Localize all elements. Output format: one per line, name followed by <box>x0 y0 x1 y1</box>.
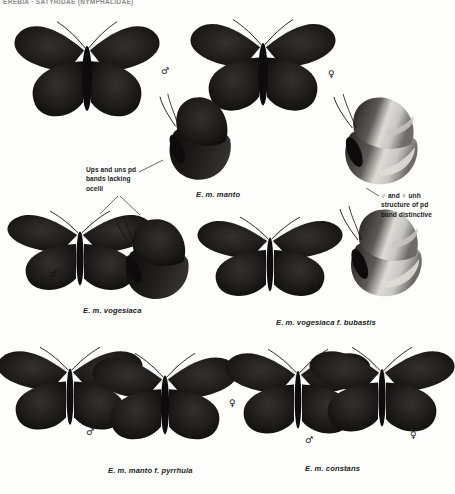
ocelli-leader-down2 <box>100 196 118 214</box>
caption-e-m-constans: E. m. constans <box>305 464 360 473</box>
note-pd-band: ♂ and ♀ unh structure of pd band distinc… <box>381 191 432 219</box>
sex-symbol-vogesiaca-male: ♂ <box>49 270 57 279</box>
leader-lines <box>0 0 455 494</box>
sex-symbol-constans-male: ♂ <box>305 436 313 445</box>
sex-symbol-pyrrhula-male: ♂ <box>86 428 94 437</box>
sex-symbol-pyrrhula-female: ♀ <box>229 399 236 408</box>
note-ocelli: Ups and uns pd bands lacking ocelli <box>86 165 136 193</box>
butterfly-plate: EREBIA · SATYRIDAE (NYMPHALIDAE) Ups and… <box>0 0 455 494</box>
ocelli-leader-down <box>120 196 140 215</box>
caption-e-m-manto: E. m. manto <box>196 190 240 199</box>
pdband-leader <box>366 188 379 196</box>
sex-symbol-bubastis-female: ♀ <box>308 282 315 291</box>
sex-symbol-manto-male: ♂ <box>161 67 169 76</box>
sex-symbol-manto-female: ♀ <box>328 70 335 79</box>
caption-e-m-vogesiaca: E. m. vogesiaca <box>83 306 141 315</box>
ocelli-leader-right <box>139 160 163 172</box>
caption-e-m-vogesiaca-f-bubastis: E. m. vogesiaca f. bubastis <box>276 318 376 327</box>
sex-symbol-constans-female: ♀ <box>410 431 417 440</box>
caption-e-m-manto-f-pyrrhula: E. m. manto f. pyrrhula <box>108 466 193 475</box>
